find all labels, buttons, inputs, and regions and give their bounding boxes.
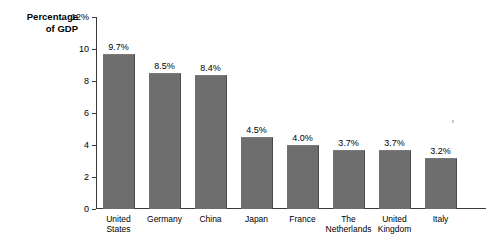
bar-value-label: 4.0% [292, 133, 313, 143]
y-tick-mark [92, 113, 96, 114]
bar-value-label: 9.7% [108, 42, 129, 52]
y-tick-label: 6 [84, 108, 89, 118]
plot-area: 12%1086420 9.7%United States8.5%Germany8… [96, 17, 486, 209]
bar: 3.7%The Netherlands [333, 150, 365, 209]
bar: 3.7%United Kingdom [379, 150, 411, 209]
y-tick-label: 12% [71, 12, 89, 22]
bar-value-label: 8.5% [154, 61, 175, 71]
bar: 8.5%Germany [149, 73, 181, 209]
bar-value-label: 4.5% [246, 125, 267, 135]
y-tick-label: 10 [79, 44, 89, 54]
y-tick-label: 4 [84, 140, 89, 150]
y-axis-line [96, 17, 97, 209]
x-axis-category-label: Italy [410, 214, 472, 224]
bar: 9.7%United States [103, 54, 135, 209]
scan-artifact-speck [452, 120, 454, 123]
bar-value-label: 3.7% [338, 138, 359, 148]
bar: 4.0%France [287, 145, 319, 209]
bar: 4.5%Japan [241, 137, 273, 209]
bar-value-label: 8.4% [200, 63, 221, 73]
y-tick-mark [92, 177, 96, 178]
bar: 3.2%Italy [425, 158, 457, 209]
y-tick-label: 8 [84, 76, 89, 86]
y-tick-mark [92, 209, 96, 210]
y-axis-title: Percentage of GDP [4, 11, 78, 34]
bar-value-label: 3.2% [430, 146, 451, 156]
bar: 8.4%China [195, 75, 227, 209]
y-tick-mark [92, 49, 96, 50]
bar-chart-figure: Percentage of GDP 12%1086420 9.7%United … [0, 0, 502, 250]
y-tick-mark [92, 17, 96, 18]
y-tick-label: 0 [84, 204, 89, 214]
bar-value-label: 3.7% [384, 138, 405, 148]
y-tick-mark [92, 81, 96, 82]
y-tick-label: 2 [84, 172, 89, 182]
y-tick-mark [92, 145, 96, 146]
